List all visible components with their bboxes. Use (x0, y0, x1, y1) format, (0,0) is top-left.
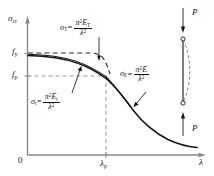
tick-label-lambda-p: λp (100, 159, 107, 170)
sigma-E-leader (136, 92, 146, 104)
sigma-T-lambda-exponent: 2 (83, 28, 86, 34)
sigma-T-denominator: λ2 (78, 29, 88, 37)
buckling-stress-figure: σcr λ 0 fy fp λp σT = π2ET λ2 σt = π2Et … (0, 0, 214, 176)
origin-label: 0 (18, 156, 23, 165)
sigma-t-formula: σt = π2Et λ2 (31, 93, 60, 111)
column-diagram-group (181, 8, 190, 136)
bottom-load-label: P (192, 124, 198, 133)
sigma-T-leader-arrowhead (97, 56, 101, 61)
column-top-pin (181, 37, 185, 41)
sigma-E-E: E (142, 65, 147, 74)
sigma-E-formula: σE = π2E λ2 (120, 66, 149, 83)
sigma-E-fraction: π2E λ2 (134, 66, 149, 83)
column-bottom-pin (181, 101, 185, 105)
sigma-t-denominator: λ2 (46, 103, 56, 111)
top-load-arrowhead (181, 26, 185, 33)
bottom-load-arrowhead (181, 112, 185, 119)
x-axis-label: λ (199, 158, 203, 167)
sigma-T-formula: σT = π2ET λ2 (60, 19, 92, 37)
fp-subscript: p (15, 74, 18, 80)
axes-group (25, 16, 206, 157)
sigma-E-equals: = (127, 71, 132, 79)
column-buckled-shape (183, 40, 190, 102)
sigma-T-fraction: π2ET λ2 (74, 19, 93, 37)
sigma-t-leader (72, 70, 80, 93)
sigma-T-lhs: σT (60, 24, 67, 33)
top-load-label: P (192, 8, 198, 17)
sigma-t-leader-arrowhead (78, 66, 82, 72)
sigma-E-lambda-exponent: 2 (142, 74, 145, 80)
y-axis-subscript: cr (12, 18, 17, 24)
sigma-t-lambda-exponent: 2 (52, 102, 55, 108)
sigma-t-E-subscript: t (56, 96, 57, 102)
sigma-t-equals: = (36, 98, 41, 106)
reference-lines-group (28, 76, 107, 155)
sigma-T-E-subscript: T (87, 22, 90, 28)
tangent-modulus-curve (28, 54, 106, 76)
tick-label-fp: fp (12, 70, 17, 81)
sigma-t-fraction: π2Et λ2 (43, 93, 60, 111)
y-axis-label: σcr (8, 14, 17, 25)
tick-label-fy: fy (12, 47, 17, 58)
sigma-T-equals: = (67, 24, 72, 32)
lambda-p-subscript: p (104, 163, 107, 169)
fy-subscript: y (15, 51, 18, 57)
sigma-E-leader-arrowhead (133, 102, 138, 107)
y-axis-arrowhead (25, 16, 30, 24)
plot-canvas (0, 0, 214, 176)
sigma-E-denominator: λ2 (136, 75, 146, 83)
sigma-E-lhs: σE (120, 70, 127, 79)
